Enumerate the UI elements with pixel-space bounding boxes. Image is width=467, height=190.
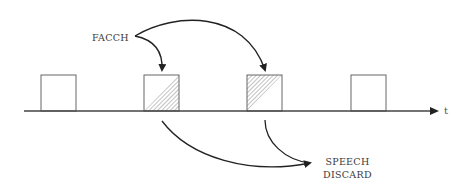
time-axis [24, 107, 439, 115]
facch-label: FACCH [92, 31, 129, 44]
arrow-facch-to-slot-2 [135, 36, 162, 70]
time-axis-label: t [444, 104, 448, 117]
slot-1 [41, 75, 76, 111]
speech-label-line-1: SPEECH [323, 155, 372, 168]
arrow-slot-2-to-speech-discard [162, 121, 310, 167]
speech-label-line-2: DISCARD [323, 168, 372, 181]
facch-timing-diagram [0, 0, 467, 190]
slot-2-facch-stolen [144, 75, 179, 111]
arrow-slot-3-to-speech-discard [265, 120, 310, 163]
slot-3-facch-stolen [247, 75, 282, 111]
time-axis-arrowhead-icon [430, 107, 439, 115]
slot-4 [351, 75, 386, 111]
speech-discard-label: SPEECH DISCARD [323, 155, 372, 181]
